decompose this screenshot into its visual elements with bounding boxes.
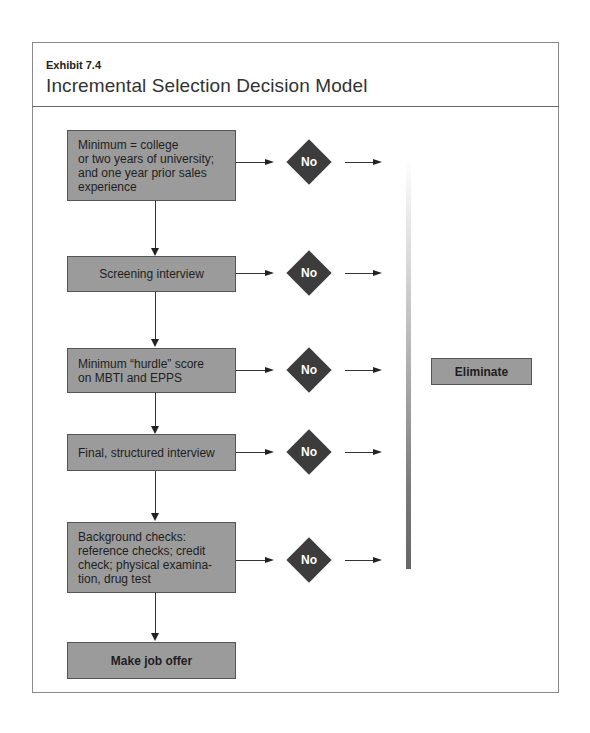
decision-label: No (287, 155, 331, 169)
connector-line (345, 162, 375, 163)
arrow-down-icon (151, 248, 159, 256)
step-label: Make job offer (111, 654, 192, 668)
step-label: Final, structured interview (78, 446, 215, 460)
connector-line (345, 452, 375, 453)
connector-line (155, 393, 156, 427)
decision-label: No (287, 266, 331, 280)
arrow-right-icon (373, 449, 382, 455)
arrow-right-icon (373, 557, 382, 563)
step-label: Screening interview (99, 267, 204, 281)
step-final-interview-box: Final, structured interview (67, 434, 236, 471)
decision-label: No (287, 363, 331, 377)
arrow-down-icon (151, 426, 159, 434)
elimination-gradient-bar (406, 158, 411, 569)
connector-line (236, 370, 266, 371)
connector-line (345, 370, 375, 371)
diagram-title: Incremental Selection Decision Model (46, 75, 367, 97)
connector-line (236, 162, 266, 163)
decision-label: No (287, 553, 331, 567)
decision-label: No (287, 445, 331, 459)
step-minimum-education-box: Minimum = college or two years of univer… (67, 130, 236, 201)
make-job-offer-box: Make job offer (67, 642, 236, 679)
arrow-right-icon (373, 159, 382, 165)
step-label: Minimum “hurdle” score on MBTI and EPPS (78, 357, 204, 385)
connector-line (236, 452, 266, 453)
connector-line (345, 273, 375, 274)
arrow-down-icon (151, 633, 159, 641)
connector-line (155, 471, 156, 514)
eliminate-label: Eliminate (455, 365, 508, 379)
eliminate-box: Eliminate (431, 358, 532, 385)
exhibit-label: Exhibit 7.4 (46, 59, 101, 71)
arrow-right-icon (373, 270, 382, 276)
connector-line (236, 560, 266, 561)
arrow-right-icon (265, 367, 274, 373)
header-divider (32, 106, 559, 107)
connector-line (155, 201, 156, 249)
arrow-right-icon (265, 159, 274, 165)
step-label: Minimum = college or two years of univer… (78, 138, 214, 194)
arrow-right-icon (265, 270, 274, 276)
connector-line (236, 273, 266, 274)
connector-line (155, 593, 156, 634)
arrow-right-icon (265, 557, 274, 563)
step-hurdle-score-box: Minimum “hurdle” score on MBTI and EPPS (67, 348, 236, 393)
arrow-right-icon (373, 367, 382, 373)
arrow-down-icon (151, 339, 159, 347)
connector-line (155, 292, 156, 340)
connector-line (345, 560, 375, 561)
arrow-right-icon (265, 449, 274, 455)
step-label: Background checks: reference checks; cre… (78, 530, 212, 586)
step-screening-interview-box: Screening interview (67, 256, 236, 292)
step-background-checks-box: Background checks: reference checks; cre… (67, 522, 236, 593)
arrow-down-icon (151, 513, 159, 521)
